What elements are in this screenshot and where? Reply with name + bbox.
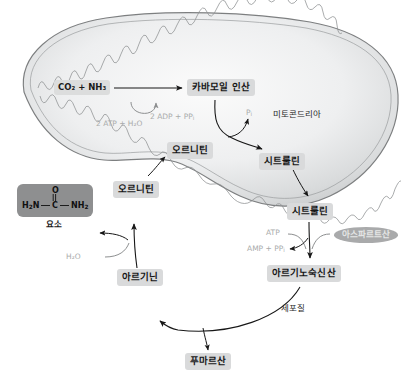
metabolite-arginine: 아르기닌 bbox=[117, 269, 163, 286]
arrow-aspartate-in-cofactor bbox=[312, 234, 330, 249]
mitochondrion-outer-membrane bbox=[23, 13, 398, 206]
cofactor-adp-out-sub: i bbox=[193, 115, 195, 121]
cofactor-atp: ATP bbox=[266, 229, 280, 237]
metabolite-aspartate: 아스파르트산 bbox=[334, 227, 398, 243]
metabolite-carbamoyl-phosphate: 카바모일 인산 bbox=[187, 79, 255, 96]
metabolite-argininosuccinate: 아르기노숙신산 bbox=[267, 265, 341, 282]
cofactor-adp-out: 2 ADP + PPi bbox=[150, 113, 194, 122]
arrow-citrulline-to-argininosuccinate bbox=[309, 222, 310, 258]
cofactor-amp-ppi-text: AMP + PP bbox=[247, 244, 283, 253]
arrow-arginine-to-ornithine bbox=[134, 224, 137, 268]
compartment-label-cytosol: 세포질 bbox=[281, 304, 305, 313]
metabolite-urea-label: 요소 bbox=[46, 220, 62, 229]
arrow-water-in bbox=[105, 243, 129, 257]
urea-formula-left: H2N bbox=[22, 201, 39, 210]
metabolite-ornithine-cytosolic: 오르니틴 bbox=[113, 181, 159, 198]
cofactor-amp-ppi: AMP + PPi bbox=[247, 245, 285, 254]
arrow-argininosuccinate-to-arginine bbox=[160, 287, 300, 331]
cofactor-water: H₂O bbox=[66, 253, 81, 261]
metabolite-co2-nh3: CO₂ + NH₃ bbox=[54, 80, 110, 95]
urea-formula-center: C bbox=[52, 201, 58, 210]
compartment-label-mitochondrion: 미토콘드리아 bbox=[273, 110, 321, 119]
cofactor-amp-ppi-sub: i bbox=[283, 247, 285, 253]
metabolite-fumarate: 푸마르산 bbox=[185, 353, 231, 370]
cofactor-adp-out-text: 2 ADP + PP bbox=[150, 112, 193, 121]
cofactor-atp-in: 2 ATP + H₂O bbox=[96, 120, 142, 128]
metabolite-citrulline-mitochondrial: 시트룰린 bbox=[259, 153, 305, 170]
urea-cycle-figure: CO₂ + NH₃ 카바모일 인산 2 ATP + H₂O 2 ADP + PP… bbox=[0, 0, 408, 378]
metabolite-ornithine-mitochondrial: 오르니틴 bbox=[167, 142, 213, 159]
metabolite-citrulline-cytosolic: 시트룰린 bbox=[287, 203, 333, 220]
cofactor-pi: Pi bbox=[246, 109, 252, 118]
urea-formula-right: NH2 bbox=[71, 201, 88, 210]
cofactor-pi-sub: i bbox=[251, 111, 253, 117]
arrow-ornithine-import bbox=[148, 157, 165, 176]
arrow-urea-out bbox=[100, 233, 128, 240]
